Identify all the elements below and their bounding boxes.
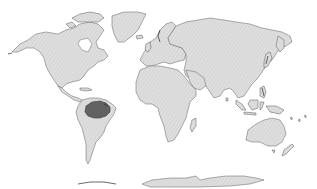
world-map: Amazon basin (northern South America) [0,0,317,189]
madagascar [190,118,196,132]
central-america [58,86,82,102]
africa [136,66,196,142]
antarctic-peninsula [78,182,116,184]
arctic-island-2 [66,22,76,28]
sulawesi [260,102,264,110]
new-guinea [266,106,284,114]
australia [246,118,286,146]
sri-lanka [226,98,228,101]
iceland [136,35,143,39]
pacific-islands [290,115,306,122]
tasmania [272,150,275,153]
sumatra [236,100,246,110]
arctic-archipelago [72,12,104,22]
java [244,112,256,115]
north-america [12,22,108,88]
aleutian-islands [8,53,12,54]
caribbean-islands [80,88,92,91]
antarctica [142,176,264,187]
borneo [248,100,258,110]
map-canvas [0,0,317,189]
new-zealand [282,144,294,156]
